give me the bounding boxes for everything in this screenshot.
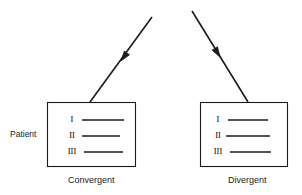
- convergent-numeral-i: I: [63, 114, 81, 124]
- convergent-caption: Convergent: [68, 176, 115, 185]
- convergent-response-lines: [82, 120, 124, 152]
- diagram-vector-layer: [0, 0, 302, 195]
- divergent-response-lines: [226, 120, 271, 152]
- divergent-caption: Divergent: [228, 176, 267, 185]
- patient-label: Patient: [10, 130, 36, 139]
- divergent-numeral-i: I: [209, 114, 227, 124]
- convergent-arrow: [90, 17, 152, 102]
- divergent-numeral-ii: II: [209, 130, 227, 140]
- divergent-arrow: [192, 11, 248, 102]
- convergent-numeral-ii: II: [63, 130, 81, 140]
- divergent-numeral-iii: III: [209, 146, 227, 156]
- convergent-arrow-shaft: [90, 17, 152, 102]
- convergent-box: [48, 103, 136, 167]
- convergent-numeral-iii: III: [63, 146, 81, 156]
- diagram-canvas: Patient I II III I II III Convergent Div…: [0, 0, 302, 195]
